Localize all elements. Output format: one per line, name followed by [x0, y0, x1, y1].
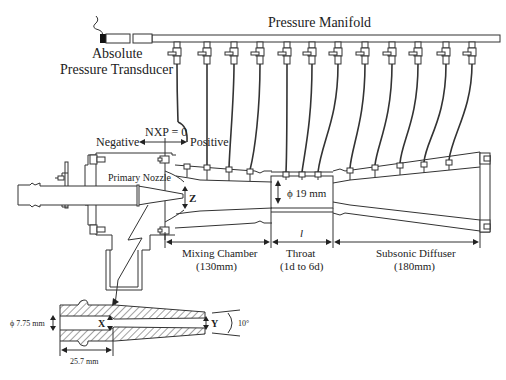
- arrow-right-icon: [473, 239, 479, 245]
- throat-diameter-label: ϕ 19 mm: [287, 187, 327, 199]
- valve-icon: [463, 42, 476, 64]
- pressure-manifold: Pressure Manifold: [152, 15, 500, 42]
- valve-icon: [437, 42, 450, 64]
- nozzle-inlet-diameter-label: ϕ 7.75 mm: [10, 319, 45, 328]
- valve-icon: [278, 42, 291, 64]
- mixing-chamber-length: (130mm): [196, 260, 237, 273]
- arrow-up-icon: [50, 315, 56, 320]
- transducer-label-line1: Absolute: [92, 46, 143, 61]
- nozzle-detail: ϕ 7.75 mm X Y 10° 25.7 mm: [10, 300, 249, 366]
- subsonic-diffuser-label: Subsonic Diffuser: [376, 247, 456, 259]
- absolute-pressure-transducer: Absolute Pressure Transducer: [60, 16, 173, 77]
- primary-nozzle-label: Primary Nozzle: [108, 172, 172, 183]
- negative-label: Negative: [96, 135, 139, 149]
- subsonic-diffuser-length: (180mm): [394, 260, 435, 273]
- arrow-right-icon: [106, 347, 112, 353]
- arrow-down-icon: [275, 198, 281, 204]
- valve-icon: [356, 42, 369, 64]
- arrow-up-icon: [182, 186, 188, 191]
- pressure-manifold-label: Pressure Manifold: [268, 15, 371, 30]
- valve-icon: [225, 42, 238, 64]
- arrow-left-icon: [334, 239, 340, 245]
- pressure-tap-lines: [168, 42, 476, 172]
- arrow-down-icon: [50, 326, 56, 331]
- throat-length: (1d to 6d): [280, 260, 324, 273]
- arrow-left-icon: [139, 139, 145, 145]
- arrow-down-icon: [182, 204, 188, 209]
- ejector-diagram: Pressure Manifold Absolute Pressure Tran…: [0, 0, 506, 380]
- angle-label: 10°: [238, 319, 249, 328]
- x-label: X: [98, 318, 106, 329]
- arrow-left-icon: [166, 239, 172, 245]
- throat-label: Throat: [286, 247, 315, 259]
- arrow-left-icon: [61, 347, 67, 353]
- detail-callout: [112, 205, 148, 306]
- valve-icon: [383, 42, 396, 64]
- valve-icon: [251, 42, 264, 64]
- valve-icon: [303, 42, 316, 64]
- nozzle-length-label: 25.7 mm: [70, 357, 99, 366]
- arrow-right-icon: [264, 239, 270, 245]
- arrow-right-icon: [181, 139, 187, 145]
- arrow-up-icon: [275, 180, 281, 186]
- y-label: Y: [211, 318, 219, 329]
- valve-icon: [168, 42, 181, 64]
- nxp-zero-label: NXP = 0: [145, 125, 187, 139]
- arrow-left-icon: [272, 239, 278, 245]
- transducer-label-line2: Pressure Transducer: [60, 62, 173, 77]
- mixing-chamber-label: Mixing Chamber: [182, 247, 258, 259]
- valve-icon: [409, 42, 422, 64]
- valve-icon: [198, 42, 211, 64]
- positive-label: Positive: [190, 135, 229, 149]
- valve-icon: [329, 42, 342, 64]
- transducer-sensor-icon: [100, 34, 106, 43]
- z-label: Z: [189, 192, 196, 204]
- throat-length-symbol: l: [300, 227, 303, 239]
- arrow-right-icon: [326, 239, 332, 245]
- section-dimensions: l Mixing Chamber (130mm) Throat (1d to 6…: [165, 208, 480, 273]
